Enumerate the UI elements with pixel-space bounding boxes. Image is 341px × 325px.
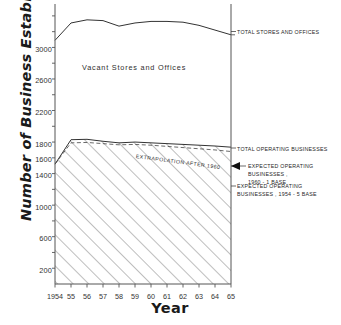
plot-area: [55, 2, 231, 290]
chart-figure: Number of Business Establishments Year 2…: [0, 0, 341, 325]
chart-svg: [55, 2, 231, 294]
annotation-total-operating: TOTAL OPERATING BUSINESSES: [237, 145, 327, 153]
annotation-expected-1954: EXPECTED OPERATING BUSINESSES , 1954 - 5…: [237, 182, 317, 198]
annotation-total-stores: TOTAL STORES AND OFFICES: [237, 28, 319, 36]
region-label-vacant: Vacant Stores and Offices: [82, 63, 186, 72]
